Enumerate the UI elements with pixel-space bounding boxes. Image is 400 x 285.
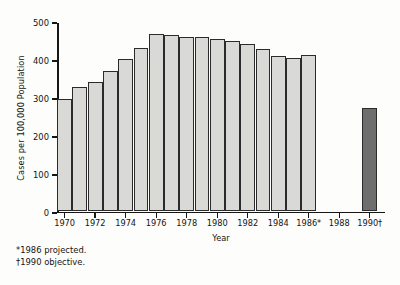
- x-axis-tick: [186, 213, 187, 218]
- bar-1978: [179, 37, 194, 212]
- bar-chart-figure: Cases per 100,000 Population 01002003004…: [0, 0, 400, 285]
- y-axis-tick-label: 100: [23, 171, 49, 179]
- bar-1984: [271, 56, 286, 212]
- x-axis-tick: [278, 213, 279, 218]
- y-axis-tick-label-wrap: 400: [23, 57, 49, 66]
- bar-1990: [362, 108, 377, 211]
- y-axis-title: Cases per 100,000 Population: [14, 18, 28, 218]
- x-axis-tick: [125, 213, 126, 218]
- y-axis-tick: [52, 60, 57, 61]
- bar-1981: [225, 41, 240, 211]
- bar-1975: [134, 48, 149, 211]
- footnote-objective: †1990 objective.: [16, 257, 86, 269]
- footnote-projected: *1986 projected.: [16, 245, 86, 257]
- plot-area: 0100200300400500197019721974197619781980…: [57, 23, 385, 213]
- y-axis-tick: [52, 212, 57, 213]
- bar-1971: [72, 87, 87, 211]
- x-axis-tick: [217, 213, 218, 218]
- x-axis-tick: [369, 213, 370, 218]
- x-axis-tick: [308, 213, 309, 218]
- y-axis-tick-label-wrap: 0: [23, 209, 49, 218]
- y-axis-tick-label: 0: [23, 209, 49, 217]
- bar-1985: [286, 58, 301, 212]
- x-axis-tick-label: 1990†: [348, 219, 392, 228]
- x-axis-line: [57, 212, 385, 214]
- x-axis-tick: [64, 213, 65, 218]
- footnotes: *1986 projected. †1990 objective.: [16, 245, 86, 268]
- y-axis-tick-label-wrap: 200: [23, 133, 49, 142]
- y-axis-tick-label-wrap: 300: [23, 95, 49, 104]
- y-axis-tick-label: 200: [23, 133, 49, 141]
- bar-1983: [256, 49, 271, 212]
- bar-1979: [195, 37, 210, 212]
- x-axis-tick: [94, 213, 95, 218]
- x-axis-tick: [247, 213, 248, 218]
- bar-1976: [149, 34, 164, 211]
- bar-1980: [210, 39, 225, 212]
- bar-1986: [301, 55, 316, 212]
- x-axis-title: Year: [57, 234, 385, 243]
- y-axis-tick-label: 400: [23, 57, 49, 65]
- x-axis-tick: [156, 213, 157, 218]
- y-axis-tick-label: 500: [23, 19, 49, 27]
- bar-1974: [118, 59, 133, 212]
- y-axis-tick-label-wrap: 100: [23, 171, 49, 180]
- bar-1973: [103, 71, 118, 212]
- bar-1972: [88, 82, 103, 211]
- x-axis-tick: [339, 213, 340, 218]
- y-axis-tick: [52, 22, 57, 23]
- bar-1982: [240, 44, 255, 211]
- bar-1977: [164, 35, 179, 212]
- y-axis-tick-label-wrap: 500: [23, 19, 49, 28]
- y-axis-tick-label: 300: [23, 95, 49, 103]
- bar-1970: [57, 99, 72, 212]
